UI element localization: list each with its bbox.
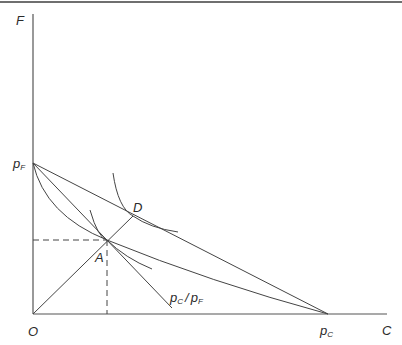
x-axis-label: C — [382, 323, 392, 338]
slope-label: pC/pF — [169, 290, 204, 306]
price-ratio-line — [33, 163, 172, 308]
point-d-label: D — [133, 200, 142, 215]
economics-diagram: F C O pF pC A D pC/pF — [0, 0, 402, 345]
point-a-label: A — [94, 250, 104, 265]
origin-label: O — [28, 324, 38, 339]
indifference-curve-upper — [113, 173, 178, 232]
ray-from-origin — [33, 216, 133, 314]
y-axis-label: F — [16, 13, 25, 28]
pf-intercept-label: pF — [12, 156, 26, 172]
pc-intercept-label: pC — [319, 323, 333, 339]
budget-line — [33, 163, 328, 314]
